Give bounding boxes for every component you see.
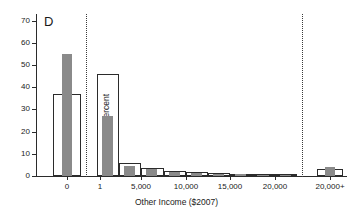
bar-filled-middle [280, 175, 291, 176]
bar-filled-middle [124, 166, 135, 176]
x-axis-line [36, 176, 347, 177]
x-tick [67, 176, 68, 180]
y-tick-label: 70 [21, 17, 30, 25]
y-tick-label: 60 [21, 39, 30, 47]
bar-filled-middle [169, 172, 180, 176]
x-tick-label: 20,000+ [315, 183, 344, 191]
x-tick [186, 176, 187, 180]
bar-filled-middle [146, 169, 157, 176]
x-tick [330, 176, 331, 180]
x-tick [275, 176, 276, 180]
x-tick [230, 176, 231, 180]
y-tick-label: 10 [21, 150, 30, 158]
x-axis-title: Other Income ($2007) [0, 198, 353, 207]
region-separator-2 [302, 14, 303, 177]
x-tick-label: 15,000 [218, 183, 242, 191]
x-tick-label: 10,000 [174, 183, 198, 191]
y-tick-label: 50 [21, 61, 30, 69]
x-tick [141, 176, 142, 180]
x-tick-label: 5,000 [131, 183, 151, 191]
x-tick-label: 20,000 [263, 183, 287, 191]
x-tick [100, 176, 101, 180]
bar-filled-zero [62, 54, 72, 176]
bar-filled-middle [102, 116, 113, 176]
y-tick [32, 176, 36, 177]
bar-filled-topcode [325, 167, 335, 176]
y-tick-label: 20 [21, 128, 30, 136]
chart-panel-d: Percent 010203040506070 015,00010,00015,… [0, 0, 353, 217]
x-tick-label: 1 [98, 183, 102, 191]
y-tick-label: 30 [21, 105, 30, 113]
bar-filled-middle [235, 174, 246, 176]
region-separator-1 [86, 14, 87, 177]
bar-filled-middle [257, 175, 268, 176]
bar-filled-middle [213, 174, 224, 176]
plot-area [36, 14, 347, 176]
y-tick-label: 40 [21, 83, 30, 91]
bar-filled-middle [191, 173, 202, 176]
x-tick-label: 0 [65, 183, 69, 191]
y-tick-label: 0 [26, 172, 30, 180]
